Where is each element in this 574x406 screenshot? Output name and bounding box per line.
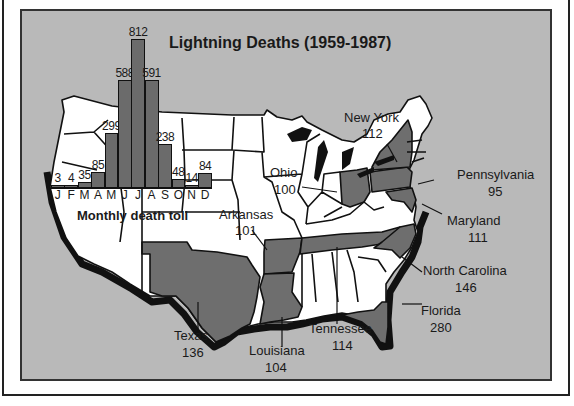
bar-value-label: 84 xyxy=(199,160,211,172)
value-texas: 136 xyxy=(182,346,204,359)
bar-value-label: 238 xyxy=(156,131,175,143)
bar-value-label: 48 xyxy=(172,166,184,178)
chart-title: Lightning Deaths (1959-1987) xyxy=(169,34,391,52)
value-tennessee: 114 xyxy=(332,339,353,352)
bar-5 xyxy=(118,80,132,188)
bar-month-label: D xyxy=(201,189,210,201)
value-new-york: 112 xyxy=(362,127,383,140)
bar-6 xyxy=(131,39,145,188)
label-north-carolina: North Carolina xyxy=(423,264,507,277)
label-arkansas: Arkansas xyxy=(219,208,273,221)
value-pennsylvania: 95 xyxy=(488,185,502,198)
bar-month-label: A xyxy=(147,189,155,201)
bar-month-label: A xyxy=(94,189,102,201)
bar-value-label: 35 xyxy=(78,169,90,181)
bar-month-label: F xyxy=(67,189,74,201)
value-arkansas: 101 xyxy=(235,224,257,237)
value-maryland: 111 xyxy=(468,231,488,244)
label-florida: Florida xyxy=(421,304,461,317)
label-ohio: Ohio xyxy=(270,166,297,179)
value-louisiana: 104 xyxy=(265,361,287,374)
bar-month-label: J xyxy=(135,189,141,201)
bar-chart-title: Monthly death toll xyxy=(77,208,188,223)
bar-value-label: 591 xyxy=(142,67,161,79)
bar-month-label: M xyxy=(80,189,90,201)
state-texas xyxy=(142,242,260,342)
value-florida: 280 xyxy=(430,321,452,334)
label-new-york: New York xyxy=(344,111,399,124)
value-ohio: 100 xyxy=(274,183,296,196)
bar-value-label: 14 xyxy=(186,172,198,184)
bar-month-label: S xyxy=(161,189,169,201)
bar-8 xyxy=(158,144,172,188)
bar-baseline xyxy=(51,187,212,189)
bar-value-label: 3 xyxy=(55,172,61,184)
bar-month-label: N xyxy=(187,189,196,201)
bar-value-label: 812 xyxy=(129,26,148,38)
value-north-carolina: 146 xyxy=(455,281,477,294)
bar-value-label: 4 xyxy=(68,172,74,184)
bar-month-label: J xyxy=(55,189,61,201)
bar-value-label: 85 xyxy=(92,159,104,171)
bar-3 xyxy=(91,172,105,188)
label-texas: Texas xyxy=(174,329,208,342)
bar-11 xyxy=(198,173,212,188)
bar-4 xyxy=(105,133,119,188)
chart-panel: Lightning Deaths (1959-1987) Monthly dea… xyxy=(20,9,552,381)
label-louisiana: Louisiana xyxy=(249,344,305,357)
bar-month-label: J xyxy=(122,189,128,201)
label-tennessee: Tennessee xyxy=(309,322,372,335)
label-maryland: Maryland xyxy=(447,214,500,227)
bar-month-label: M xyxy=(106,189,116,201)
label-pennsylvania: Pennsylvania xyxy=(457,168,534,181)
bar-month-label: O xyxy=(174,189,183,201)
